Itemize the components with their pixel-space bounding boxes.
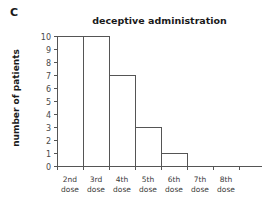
x-tick-label-unit: dose — [87, 185, 105, 194]
bar-chart-plot: 012345678910 2nddose3rddose4thdose5thdos… — [0, 0, 270, 205]
x-tick-label-unit: dose — [217, 185, 235, 194]
y-tick-label: 6 — [46, 85, 51, 94]
bar — [136, 128, 162, 167]
x-tick-label-unit: dose — [139, 185, 157, 194]
y-tick-label: 7 — [46, 72, 51, 81]
x-tick-label-ordinal: 2nd — [63, 175, 78, 184]
y-tick-label: 5 — [46, 98, 51, 107]
x-tick-label-unit: dose — [61, 185, 79, 194]
x-tick-label-ordinal: 7th — [194, 175, 207, 184]
x-tick-label-ordinal: 8th — [220, 175, 233, 184]
x-tick-label-unit: dose — [165, 185, 183, 194]
y-axis-tick-marks — [54, 37, 57, 167]
x-tick-label-ordinal: 4th — [116, 175, 129, 184]
figure-panel-c: C deceptive administration number of pat… — [0, 0, 270, 205]
y-tick-label: 8 — [46, 59, 51, 68]
x-tick-label-unit: dose — [113, 185, 131, 194]
y-tick-label: 2 — [46, 137, 51, 146]
y-axis-tick-labels: 012345678910 — [41, 33, 51, 172]
bar — [58, 37, 84, 167]
x-tick-label-ordinal: 6th — [168, 175, 181, 184]
x-tick-label-unit: dose — [191, 185, 209, 194]
bars-group — [58, 37, 188, 167]
bar — [162, 154, 188, 167]
y-tick-label: 4 — [46, 111, 51, 120]
y-tick-label: 0 — [46, 163, 51, 172]
bar — [110, 76, 136, 167]
x-tick-label-ordinal: 3rd — [90, 175, 103, 184]
x-tick-label-ordinal: 5th — [142, 175, 155, 184]
y-tick-label: 3 — [46, 124, 51, 133]
y-tick-label: 1 — [46, 150, 51, 159]
y-tick-label: 9 — [46, 46, 51, 55]
y-tick-label: 10 — [41, 33, 51, 42]
bar — [84, 37, 110, 167]
x-axis-tick-labels: 2nddose3rddose4thdose5thdose6thdose7thdo… — [61, 175, 235, 194]
